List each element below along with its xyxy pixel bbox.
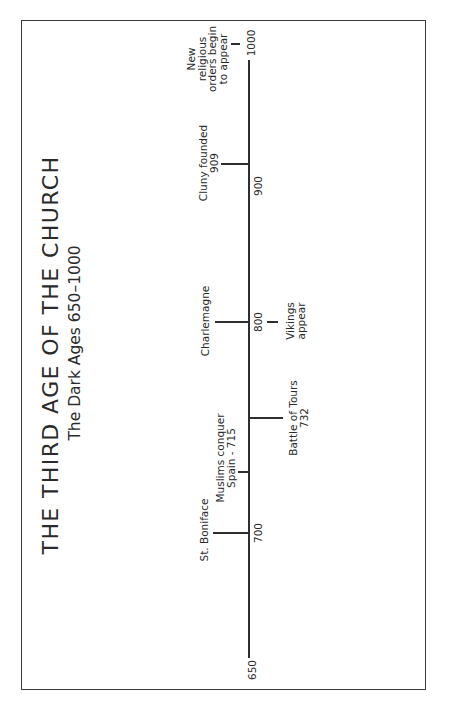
event-st-boniface-text: St. Boniface [199,498,210,561]
event-tours-line1: Battle of Tours [288,380,299,456]
event-charlemagne-text: Charlemagne [200,286,211,357]
diagram-subtitle: The Dark Ages 650–1000 [68,245,84,440]
event-muslims-line1: Muslims conquer [215,413,226,502]
tick-vikings-appear [267,321,278,323]
year-label-800: 800 [253,312,264,332]
tick-st-boniface [213,532,249,534]
event-orders-line1: New [186,26,197,92]
event-cluny-line1: Cluny founded [198,125,209,201]
event-charlemagne: Charlemagne [200,286,211,357]
event-new-religious-orders: New religious orders begin to appear [186,26,228,92]
event-orders-line4: to appear [218,26,229,92]
event-vikings-appear: Vikings appear [285,302,306,340]
event-cluny-founded: Cluny founded 909 [198,125,219,201]
event-vikings-line1: Vikings [285,302,296,340]
tick-muslims-conquer-spain [238,471,249,473]
timeline-axis [248,60,250,658]
event-muslims-line2: Spain - 715 [225,413,236,502]
event-orders-line3: orders begin [207,26,218,92]
event-cluny-line2: 909 [208,125,219,201]
tick-battle-of-tours [249,417,283,419]
tick-new-religious-orders [231,43,240,45]
tick-charlemagne [215,321,249,323]
event-tours-line2: 732 [298,380,309,456]
tick-cluny-founded [221,163,249,165]
year-label-900: 900 [253,176,264,196]
year-label-700: 700 [253,523,264,543]
event-st-boniface: St. Boniface [199,498,210,561]
year-label-1000: 1000 [246,30,257,57]
event-muslims-conquer-spain: Muslims conquer Spain - 715 [215,413,236,502]
event-vikings-line2: appear [295,302,306,340]
diagram-title: THE THIRD AGE OF THE CHURCH [40,156,62,555]
event-battle-of-tours: Battle of Tours 732 [288,380,309,456]
year-label-650: 650 [247,660,258,680]
